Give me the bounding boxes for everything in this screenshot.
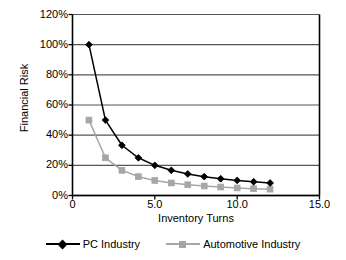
y-tick-label-120: 120% bbox=[24, 9, 68, 20]
y-tick-label-20: 20% bbox=[24, 159, 68, 170]
x-tick-label-0: 0 bbox=[48, 198, 98, 210]
financial-risk-vs-inventory-turns-chart: Financial Risk 0%20%40%60%80%100%120% 05… bbox=[0, 0, 346, 260]
x-tick-label-15: 15.0 bbox=[295, 198, 345, 210]
x-axis-title: Inventory Turns bbox=[72, 212, 320, 224]
legend-label: Automotive Industry bbox=[203, 238, 300, 250]
y-tick-label-80: 80% bbox=[24, 69, 68, 80]
y-tick-label-40: 40% bbox=[24, 129, 68, 140]
chart-legend: PC IndustryAutomotive Industry bbox=[0, 234, 346, 254]
legend-entry-automotive-industry: Automotive Industry bbox=[166, 238, 300, 250]
x-tick-label-5: 5.0 bbox=[130, 198, 180, 210]
y-axis-tick-labels: 0%20%40%60%80%100%120% bbox=[22, 0, 68, 260]
legend-swatch-square-icon bbox=[166, 239, 200, 249]
legend-marker-diamond-icon bbox=[57, 240, 67, 250]
y-tick-label-60: 60% bbox=[24, 99, 68, 110]
x-tick-label-10: 10.0 bbox=[212, 198, 262, 210]
legend-swatch-diamond-icon bbox=[46, 239, 80, 249]
legend-entry-pc-industry: PC Industry bbox=[46, 238, 140, 250]
legend-label: PC Industry bbox=[83, 238, 140, 250]
y-tick-label-100: 100% bbox=[24, 39, 68, 50]
legend-marker-square-icon bbox=[179, 241, 186, 248]
